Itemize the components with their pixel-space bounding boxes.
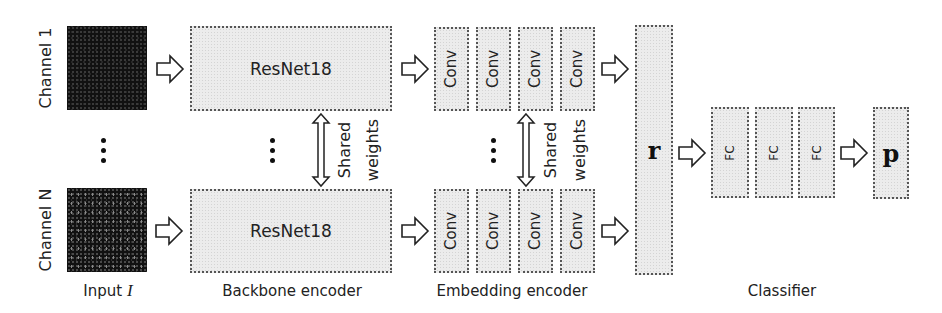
conv-block: Conv — [434, 27, 469, 111]
conv-block: Conv — [518, 189, 553, 273]
channel-n-image — [67, 188, 147, 272]
arrow-right-icon — [840, 139, 868, 167]
fc-label: FC — [767, 145, 781, 160]
channel-1-image — [67, 26, 147, 110]
arrow-right-icon — [601, 217, 629, 245]
conv-label: Conv — [569, 50, 587, 88]
arrow-right-icon — [401, 55, 429, 83]
channel-1-label: Channel 1 — [36, 28, 55, 109]
classifier-caption: Classifier — [748, 282, 816, 300]
shared-weights-double-arrow-icon — [312, 113, 330, 187]
conv-label: Conv — [485, 50, 503, 88]
fc-label: FC — [723, 145, 737, 160]
conv-block: Conv — [518, 27, 553, 111]
conv-block: Conv — [560, 27, 595, 111]
shared-weights-double-arrow-icon — [517, 113, 535, 187]
embedding-caption: Embedding encoder — [437, 282, 588, 300]
conv-block: Conv — [476, 189, 511, 273]
conv-label: Conv — [443, 50, 461, 88]
resnet18-block-channel-1: ResNet18 — [190, 26, 392, 111]
backbone-shared-label-line1: Shared — [335, 122, 354, 178]
arrow-right-icon — [156, 55, 184, 83]
conv-block: Conv — [476, 27, 511, 111]
fc-label: FC — [810, 145, 824, 160]
representation-vector-r: r — [635, 25, 673, 275]
channel-ellipsis-icon — [101, 138, 107, 168]
resnet18-block-channel-n: ResNet18 — [190, 189, 392, 273]
resnet18-label: ResNet18 — [250, 221, 332, 241]
arrow-right-icon — [401, 217, 429, 245]
conv-label: Conv — [485, 212, 503, 250]
embedding-ellipsis-icon — [491, 138, 497, 168]
fc-layer: FC — [711, 107, 749, 198]
embedding-shared-label-line1: Shared — [541, 122, 560, 178]
representation-label: r — [648, 136, 661, 165]
input-caption-text: Input — [83, 282, 122, 300]
output-label: p — [883, 139, 900, 168]
conv-label: Conv — [527, 212, 545, 250]
backbone-caption: Backbone encoder — [222, 282, 362, 300]
embedding-shared-label-line2: weights — [570, 119, 589, 181]
fc-layer: FC — [755, 107, 793, 198]
arrow-right-icon — [678, 139, 706, 167]
conv-label: Conv — [527, 50, 545, 88]
input-caption-symbol: I — [127, 281, 133, 300]
backbone-shared-label-line2: weights — [363, 119, 382, 181]
conv-block: Conv — [434, 189, 469, 273]
arrow-right-icon — [601, 55, 629, 83]
resnet18-label: ResNet18 — [250, 59, 332, 79]
conv-label: Conv — [443, 212, 461, 250]
conv-label: Conv — [569, 212, 587, 250]
fc-layer: FC — [798, 107, 835, 198]
channel-n-label: Channel N — [36, 189, 55, 272]
arrow-right-icon — [155, 217, 183, 245]
input-caption: Input I — [83, 281, 132, 301]
conv-block: Conv — [560, 189, 595, 273]
backbone-ellipsis-icon — [270, 138, 276, 168]
output-probability-p: p — [873, 107, 909, 199]
